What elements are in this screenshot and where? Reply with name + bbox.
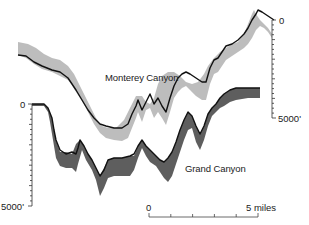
right-axis-bottom-label: 5000' <box>278 113 301 124</box>
scale-bar-end-label: 5 miles <box>246 202 276 213</box>
right-axis-top-label: 0 <box>279 15 284 26</box>
left-depth-axis <box>28 104 32 206</box>
scale-bar <box>149 213 258 217</box>
canyon-profile-diagram <box>0 0 309 225</box>
grand-canyon-label: Grand Canyon <box>185 163 246 174</box>
right-depth-axis <box>272 20 276 118</box>
left-axis-top-label: 0 <box>20 99 25 110</box>
monterey-canyon-label: Monterey Canyon <box>105 72 178 83</box>
scale-bar-start-label: 0 <box>146 202 151 213</box>
left-axis-bottom-label: 5000' <box>1 201 24 212</box>
